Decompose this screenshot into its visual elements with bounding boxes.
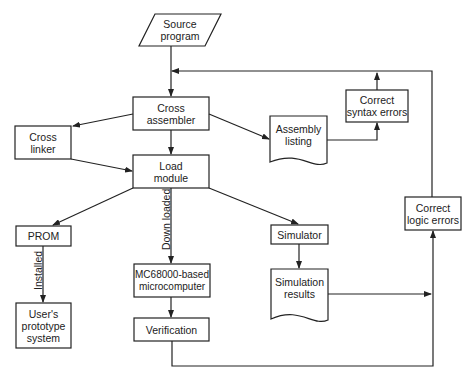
correct-syntax-errors-label: Correct syntax errors [346, 90, 408, 122]
cross-assembler-label: Cross assembler [133, 97, 209, 130]
assembly-listing-label: Assembly listing [270, 118, 327, 152]
down-loaded-edge-label: Down loaded [160, 189, 172, 250]
correct-logic-errors-label: Correct logic errors [405, 197, 461, 230]
source-program-label: Source program [146, 14, 214, 46]
cross-linker-label: Cross linker [15, 126, 71, 159]
verification-label: Verification [134, 318, 209, 341]
prom-label: PROM [16, 226, 71, 246]
users-prototype-system-label: User's prototype system [16, 303, 71, 348]
installed-edge-label: Installed [32, 251, 44, 290]
mc68000-microcomputer-label: MC68000-based microcomputer [134, 264, 210, 297]
simulation-results-label: Simulation results [271, 271, 328, 305]
load-module-label: Load module [133, 155, 209, 188]
simulator-label: Simulator [271, 225, 328, 244]
